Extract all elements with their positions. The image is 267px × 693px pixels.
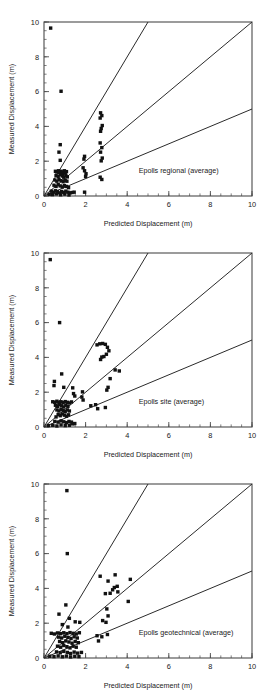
data-point bbox=[70, 400, 73, 403]
data-point bbox=[60, 636, 63, 639]
data-point bbox=[101, 619, 104, 622]
scatter-plot-geotechnical: 02468100246810Epolls geotechnical (avera… bbox=[0, 462, 267, 693]
data-point bbox=[55, 192, 58, 195]
data-point-series bbox=[48, 26, 104, 196]
y-tick-label: 8 bbox=[35, 515, 39, 524]
data-point bbox=[113, 573, 116, 576]
data-point bbox=[100, 635, 103, 638]
y-tick-label: 0 bbox=[35, 654, 39, 663]
data-point bbox=[66, 552, 69, 555]
data-point bbox=[56, 420, 59, 423]
data-point bbox=[62, 631, 65, 634]
chart-svg: 02468100246810Epolls geotechnical (avera… bbox=[0, 462, 267, 693]
data-point bbox=[59, 90, 62, 93]
data-point bbox=[51, 193, 54, 196]
data-point bbox=[63, 635, 66, 638]
data-point bbox=[68, 617, 71, 620]
data-point bbox=[65, 180, 68, 183]
data-point bbox=[106, 579, 109, 582]
data-point bbox=[68, 631, 71, 634]
data-point bbox=[113, 368, 116, 371]
data-point bbox=[116, 585, 119, 588]
data-point bbox=[100, 178, 103, 181]
data-point bbox=[108, 592, 111, 595]
data-point bbox=[48, 193, 51, 196]
data-point bbox=[64, 603, 67, 606]
data-point bbox=[82, 157, 85, 160]
data-point bbox=[104, 621, 107, 624]
data-point bbox=[101, 124, 104, 127]
data-point bbox=[108, 377, 111, 380]
data-point bbox=[73, 655, 76, 658]
data-point bbox=[54, 415, 57, 418]
slope-0.5-line bbox=[44, 571, 252, 658]
data-point bbox=[65, 170, 68, 173]
data-point bbox=[67, 640, 70, 643]
data-point bbox=[56, 654, 59, 657]
data-point bbox=[116, 590, 119, 593]
y-tick-label: 2 bbox=[35, 157, 39, 166]
data-point bbox=[49, 26, 52, 29]
data-point bbox=[59, 193, 62, 196]
data-point bbox=[49, 258, 52, 261]
data-point bbox=[47, 424, 50, 427]
data-point bbox=[67, 193, 70, 196]
data-point bbox=[66, 636, 69, 639]
data-point bbox=[59, 423, 62, 426]
x-tick-label: 6 bbox=[167, 662, 171, 671]
data-point bbox=[98, 141, 101, 144]
data-point bbox=[81, 166, 84, 169]
data-point bbox=[53, 380, 56, 383]
data-point bbox=[77, 655, 80, 658]
data-point bbox=[89, 404, 92, 407]
data-point-series bbox=[48, 489, 132, 659]
data-point bbox=[78, 631, 81, 634]
scatter-plot-site: 02468100246810Epolls site (average)Predi… bbox=[0, 231, 267, 462]
data-point bbox=[53, 632, 56, 635]
chart-panel-3: 02468100246810Epolls geotechnical (avera… bbox=[0, 462, 267, 693]
data-point bbox=[106, 633, 109, 636]
data-point bbox=[64, 424, 67, 427]
data-point bbox=[48, 655, 51, 658]
x-tick-label: 2 bbox=[84, 431, 88, 440]
y-tick-label: 6 bbox=[35, 87, 39, 96]
y-tick-label: 8 bbox=[35, 284, 39, 293]
data-point bbox=[51, 424, 54, 427]
data-point bbox=[73, 422, 76, 425]
data-point bbox=[106, 614, 109, 617]
data-point bbox=[78, 621, 81, 624]
data-point bbox=[104, 343, 107, 346]
chart-panel-1: 02468100246810Epolls regional (average)P… bbox=[0, 0, 267, 231]
data-point bbox=[65, 645, 68, 648]
data-point bbox=[118, 369, 121, 372]
data-point bbox=[53, 420, 56, 423]
chart-svg: 02468100246810Epolls regional (average)P… bbox=[0, 0, 267, 231]
data-point bbox=[95, 634, 98, 637]
data-point bbox=[57, 612, 60, 615]
data-point bbox=[68, 409, 71, 412]
x-tick-label: 6 bbox=[167, 200, 171, 209]
panel-annotation: Epolls site (average) bbox=[139, 397, 205, 406]
y-tick-label: 10 bbox=[31, 249, 39, 258]
data-point bbox=[67, 413, 70, 416]
data-point bbox=[62, 650, 65, 653]
x-tick-label: 8 bbox=[208, 431, 212, 440]
data-point bbox=[59, 646, 62, 649]
data-point bbox=[106, 346, 109, 349]
x-tick-label: 8 bbox=[208, 200, 212, 209]
data-point bbox=[83, 169, 86, 172]
figure-page: 02468100246810Epolls regional (average)P… bbox=[0, 0, 267, 693]
x-axis-title: Predicted Displacement (m) bbox=[104, 450, 193, 459]
data-point bbox=[77, 641, 80, 644]
data-point bbox=[61, 623, 64, 626]
data-point bbox=[84, 175, 87, 178]
data-point bbox=[58, 640, 61, 643]
data-point bbox=[98, 342, 101, 345]
data-point bbox=[96, 407, 99, 410]
y-axis-title: Measured Displacement (m) bbox=[7, 526, 16, 616]
data-point bbox=[98, 116, 101, 119]
y-tick-label: 10 bbox=[31, 18, 39, 27]
data-point bbox=[70, 642, 73, 645]
data-point bbox=[64, 639, 67, 642]
scatter-plot-regional: 02468100246810Epolls regional (average)P… bbox=[0, 0, 267, 231]
